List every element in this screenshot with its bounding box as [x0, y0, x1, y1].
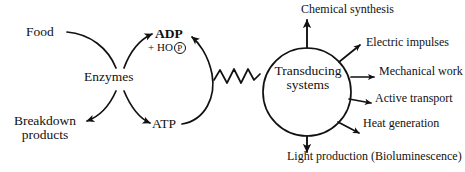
label-mechanical-work: Mechanical work	[379, 65, 463, 78]
label-enzymes: Enzymes	[84, 70, 134, 84]
label-atp: ATP	[152, 117, 176, 131]
arrow-active-transport	[349, 99, 371, 103]
label-chemical-synthesis: Chemical synthesis	[301, 3, 394, 16]
high-energy-bond-squiggle	[214, 69, 260, 83]
label-active-transport: Active transport	[375, 92, 453, 105]
label-transducing-systems: Transducing systems	[268, 64, 348, 92]
label-transducing-systems-line1: Transducing	[268, 64, 348, 78]
label-transducing-systems-line2: systems	[268, 78, 348, 92]
arrow-enzymes-to-atp	[124, 91, 150, 123]
label-breakdown-products-line1: Breakdown	[6, 114, 84, 128]
label-food: Food	[26, 25, 54, 39]
arrow-food-to-enzymes	[67, 32, 116, 68]
arrow-enzymes-to-breakdown	[87, 91, 116, 121]
label-phosphate-prefix: + HO	[148, 42, 173, 54]
label-light-production: Light production (Bioluminescence)	[287, 150, 462, 163]
label-electric-impulses: Electric impulses	[366, 36, 449, 49]
circled-phosphate-icon: P	[174, 42, 186, 54]
label-breakdown-products-line2: products	[6, 128, 84, 142]
label-inorganic-phosphate: + HO P	[148, 42, 186, 54]
arrow-atp-to-adp-return	[182, 37, 213, 124]
energy-transduction-diagram: Food Enzymes Breakdown products ADP + HO…	[0, 0, 465, 172]
label-adp: ADP	[155, 27, 183, 41]
arrow-heat-generation	[338, 122, 359, 133]
arrow-electric-impulses	[339, 45, 360, 62]
label-heat-generation: Heat generation	[363, 117, 439, 130]
diagram-vector-layer	[0, 0, 465, 172]
label-breakdown-products: Breakdown products	[6, 114, 84, 142]
